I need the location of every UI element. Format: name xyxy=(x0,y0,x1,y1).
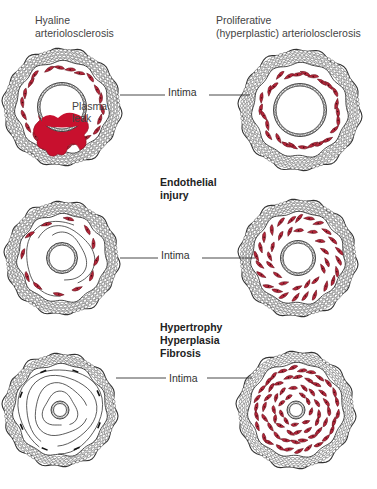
intima-label-row2: Intima xyxy=(158,249,193,261)
lumen xyxy=(49,245,75,271)
stage-endothelial-injury: Endothelial injury xyxy=(160,176,217,202)
stage-hypertrophy-hyperplasia-fibrosis: Hypertrophy Hyperplasia Fibrosis xyxy=(160,321,222,360)
stage-endothelial-line2: injury xyxy=(160,189,217,202)
stage-endothelial-line1: Endothelial xyxy=(160,176,217,189)
intima-label-row1: Intima xyxy=(165,86,200,98)
lumen xyxy=(276,86,324,134)
plasma-leak-line2: leak xyxy=(72,112,107,124)
lumen xyxy=(54,404,67,417)
vessel-proliferative-onion-skin xyxy=(236,351,356,468)
diagram-canvas xyxy=(0,0,377,489)
intima-label-row3: Intima xyxy=(166,372,201,384)
lumen xyxy=(290,404,303,417)
vessel-proliferative-early xyxy=(238,49,362,170)
stage-hyperplasia: Hyperplasia xyxy=(160,334,222,347)
lumen xyxy=(283,243,313,273)
plasma-leak-line1: Plasma xyxy=(72,100,107,112)
plasma-leak-label: Plasma leak xyxy=(72,100,107,124)
stage-hypertrophy: Hypertrophy xyxy=(160,321,222,334)
vessel-proliferative-hyperplasia xyxy=(238,199,358,316)
vessel-hyaline-fibrosis xyxy=(2,353,118,466)
vessel-hyaline-thickened xyxy=(4,201,120,314)
stage-fibrosis: Fibrosis xyxy=(160,347,222,360)
